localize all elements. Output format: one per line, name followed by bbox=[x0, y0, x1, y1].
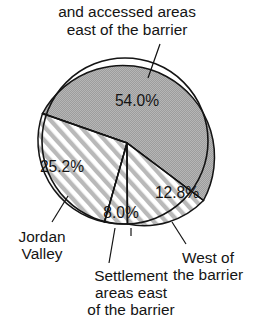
pie-chart-canvas: and accessed areas east of the barrier 5… bbox=[0, 0, 255, 326]
callout-settlement-line-3: of the barrier bbox=[87, 301, 174, 318]
leader-line-jordan-valley bbox=[52, 196, 68, 222]
callout-jordan-valley-line-2: Valley bbox=[22, 245, 63, 262]
slice-value-accessed-areas: 54.0% bbox=[115, 92, 159, 109]
slice-value-settlement-areas: 8.0% bbox=[103, 204, 139, 221]
title-line-2: east of the barrier bbox=[67, 21, 188, 38]
callout-settlement-line-2: areas east bbox=[95, 284, 168, 301]
pie-chart-figure: and accessed areas east of the barrier 5… bbox=[0, 0, 255, 326]
slice-value-west-of-barrier: 12.8% bbox=[155, 184, 199, 201]
callout-settlement-line-1: Settlement bbox=[94, 267, 168, 284]
callout-west-line-2: the barrier bbox=[173, 266, 243, 283]
leader-line-settlement-areas bbox=[109, 228, 115, 263]
slice-value-jordan-valley: 25.2% bbox=[40, 158, 84, 175]
title-line-1: and accessed areas bbox=[58, 3, 196, 20]
callout-west-line-1: West of bbox=[182, 249, 235, 266]
leader-line-west-of-barrier bbox=[172, 222, 186, 244]
callout-jordan-valley-line-1: Jordan bbox=[18, 228, 65, 245]
